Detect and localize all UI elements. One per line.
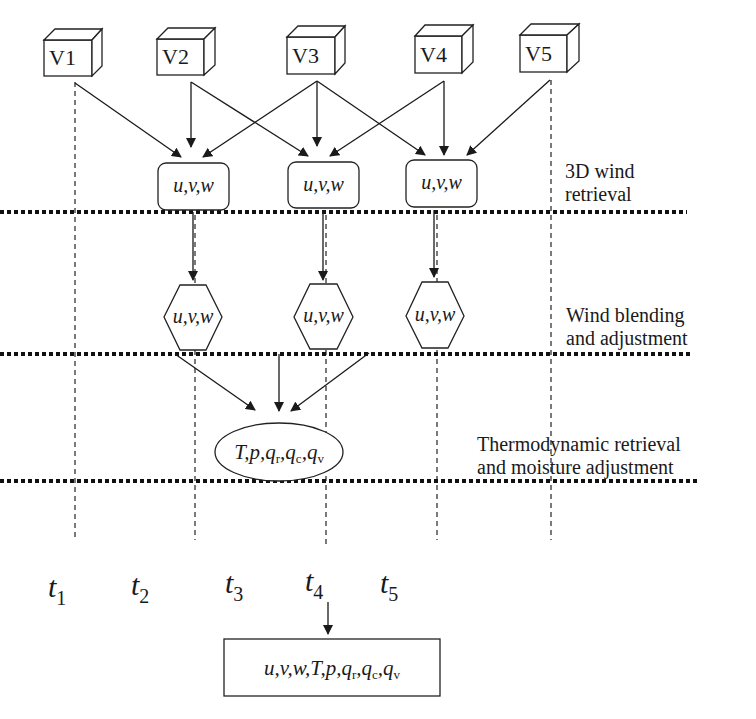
- thermo-text: T,p,qr,qc,qv: [215, 440, 343, 467]
- blending-text-t4: u,v,w: [406, 303, 464, 326]
- volume-label-v5: V5: [525, 41, 552, 66]
- blending-text-t2: u,v,w: [164, 305, 222, 328]
- volume-label-v4: V4: [420, 42, 447, 67]
- arrow-v3-r2: [203, 81, 317, 157]
- time-label-t1: t1: [48, 570, 66, 610]
- diagram-canvas: [0, 0, 756, 719]
- arrow-v4-r3: [330, 81, 444, 156]
- retrieval-text-t4: u,v,w: [406, 171, 477, 194]
- stage-label-wind-retrieval: 3D wind retrieval: [565, 160, 634, 206]
- stage-label-wind-blending: Wind blending and adjustment: [566, 304, 688, 350]
- time-label-t2: t2: [131, 568, 149, 608]
- arrow-v5-r4: [467, 80, 550, 155]
- volume-label-v3: V3: [292, 43, 319, 68]
- retrieval-text-t3: u,v,w: [288, 173, 359, 196]
- arrow-v3-r4: [317, 81, 425, 155]
- time-label-t5: t5: [380, 566, 398, 606]
- blending-arrows: [175, 353, 369, 411]
- arrow-v1-r2: [75, 83, 181, 157]
- volume-label-v2: V2: [162, 44, 189, 69]
- blending-text-t3: u,v,w: [294, 304, 353, 327]
- retrieval-text-t2: u,v,w: [158, 174, 229, 197]
- time-label-t3: t3: [225, 566, 243, 606]
- arrow-v2-r3: [191, 82, 308, 156]
- stage-label-thermo: Thermodynamic retrieval and moisture adj…: [477, 433, 681, 479]
- output-text: u,v,w,T,p,qr,qc,qv: [224, 656, 440, 683]
- volume-label-v1: V1: [49, 45, 76, 70]
- retrieval-arrows: [193, 210, 434, 280]
- volume-arrows: [75, 80, 550, 157]
- time-label-t4: t4: [305, 564, 323, 604]
- output-text-base: u,v,w,T,p,: [264, 656, 342, 680]
- thermo-text-base: T,p,: [234, 440, 265, 464]
